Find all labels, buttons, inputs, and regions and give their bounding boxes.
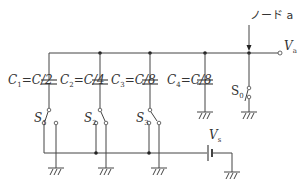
s0-label: S0 <box>231 84 244 100</box>
va-terminal <box>278 51 282 55</box>
circuit-diagram: Va ノード a C1=C/2 C2=C/4 C3=C/8 <box>0 0 299 194</box>
c3-label: C3=C/8 <box>111 73 156 89</box>
battery-vs <box>208 145 240 179</box>
node-a-label: ノード a <box>250 9 293 22</box>
s1-label: S1 <box>34 111 47 127</box>
vs-label: Vs <box>209 128 222 144</box>
c2-label: C2=C/4 <box>60 73 105 89</box>
c1-label: C1=C/2 <box>8 73 53 89</box>
junction-dot <box>147 151 151 155</box>
s2-label: S2 <box>84 111 97 127</box>
switch-s2 <box>94 108 114 175</box>
switch-s3 <box>147 108 167 175</box>
va-label: Va <box>284 39 297 55</box>
switch-s0 <box>241 53 257 119</box>
junction-dot <box>94 151 98 155</box>
c4-label: C4=C/8 <box>167 73 212 89</box>
node-a-arrow-icon <box>247 45 252 51</box>
s3-label: S3 <box>136 111 149 127</box>
